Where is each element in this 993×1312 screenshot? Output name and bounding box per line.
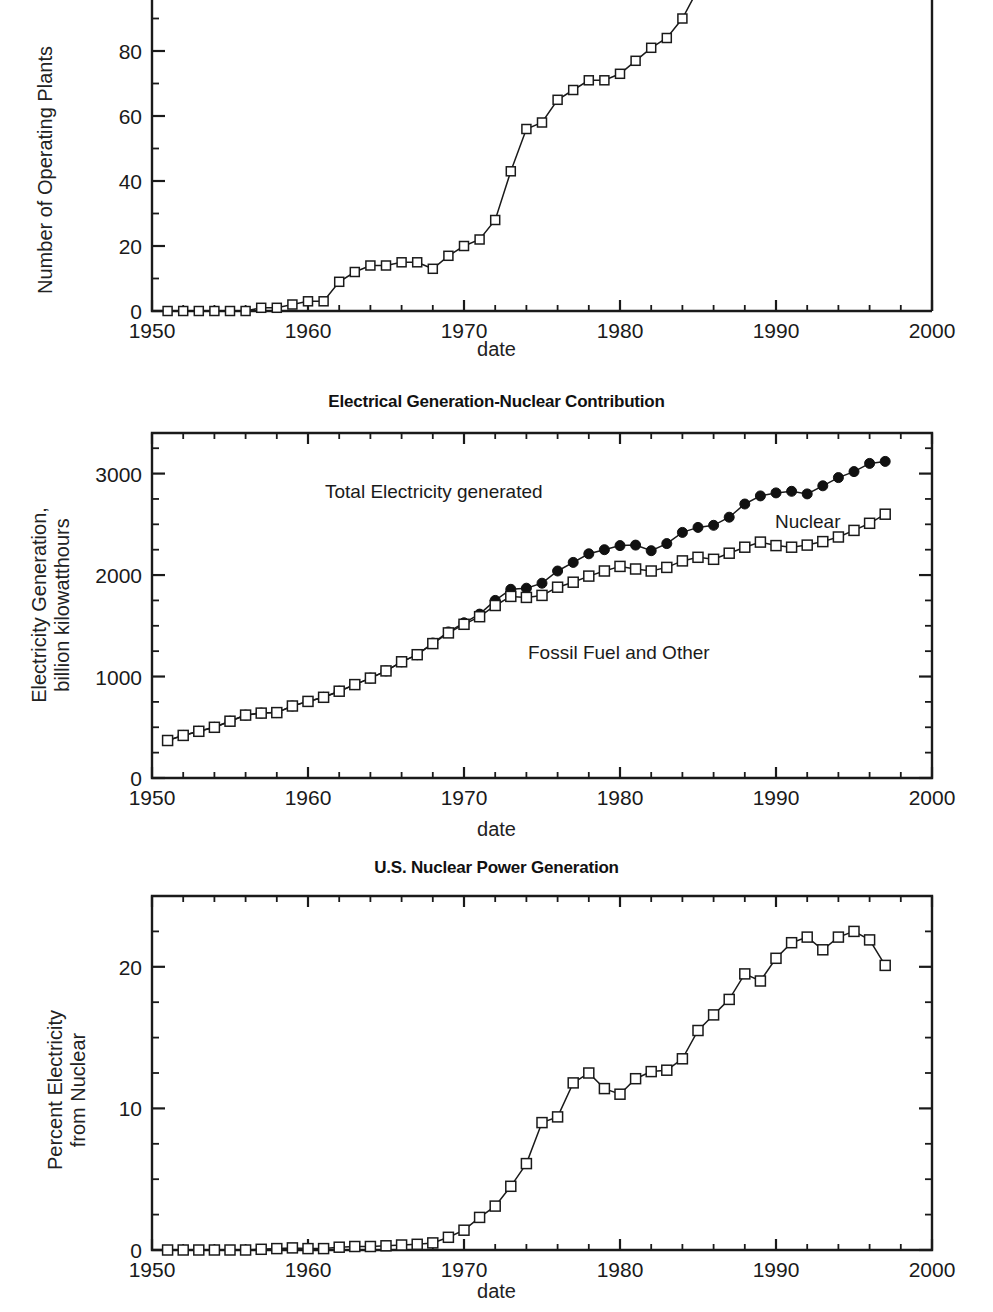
panel2-ylabel: Electricity Generation, billion kilowatt…: [28, 430, 74, 780]
y-tick-label: 20: [119, 235, 142, 258]
panel1-plot-area: 195019601970198019902000020406080100: [0, 0, 993, 370]
nuclear-power-figure: Number of Operating Plants 1950196019701…: [0, 0, 993, 1312]
y-tick-label: 80: [119, 40, 142, 63]
x-tick-label: 1970: [441, 1258, 488, 1281]
y-tick-label: 40: [119, 170, 142, 193]
panel2-ylabel-line2: billion kilowatthours: [51, 430, 74, 780]
panel1-xlabel: date: [0, 338, 993, 361]
y-tick-label: 1000: [95, 666, 142, 689]
panel1-ylabel: Number of Operating Plants: [34, 20, 57, 320]
x-tick-label: 1960: [285, 1258, 332, 1281]
x-tick-label: 1960: [285, 786, 332, 809]
x-tick-label: 1970: [441, 786, 488, 809]
y-tick-label: 60: [119, 105, 142, 128]
panel3-ylabel: Percent Electricity from Nuclear: [44, 940, 90, 1240]
y-tick-label: 20: [119, 956, 142, 979]
panel2-xlabel: date: [0, 818, 993, 841]
series-1: [163, 0, 718, 316]
panel3-ylabel-line1: Percent Electricity: [44, 940, 67, 1240]
panel2-plot-area: 1950196019701980199020000100020003000Tot…: [0, 380, 993, 850]
x-tick-label: 1990: [753, 1258, 800, 1281]
y-tick-label: 0: [130, 767, 142, 790]
y-tick-label: 3000: [95, 463, 142, 486]
panel3-xlabel: date: [0, 1280, 993, 1303]
x-tick-label: 1980: [597, 786, 644, 809]
panel-operating-plants: Number of Operating Plants 1950196019701…: [0, 0, 993, 370]
y-tick-label: 0: [130, 300, 142, 323]
x-tick-label: 2000: [909, 786, 956, 809]
panel-electrical-generation: Electrical Generation-Nuclear Contributi…: [0, 380, 993, 850]
panel1-ylabel-line1: Number of Operating Plants: [34, 46, 56, 294]
x-tick-label: 1980: [597, 1258, 644, 1281]
x-tick-label: 1990: [753, 786, 800, 809]
nuclear-label: Nuclear: [775, 511, 841, 532]
y-tick-label: 2000: [95, 564, 142, 587]
y-tick-label: 0: [130, 1239, 142, 1262]
panel3-title: U.S. Nuclear Power Generation: [0, 858, 993, 878]
fossil-fuel-label: Fossil Fuel and Other: [528, 642, 710, 663]
panel3-ylabel-line2: from Nuclear: [67, 940, 90, 1240]
total-electricity-label: Total Electricity generated: [325, 481, 543, 502]
series-1: [163, 926, 891, 1255]
x-tick-label: 2000: [909, 1258, 956, 1281]
panel2-ylabel-line1: Electricity Generation,: [28, 430, 51, 780]
panel2-title: Electrical Generation-Nuclear Contributi…: [0, 392, 993, 412]
panel3-plot-area: 19501960197019801990200001020: [0, 850, 993, 1312]
panel-nuclear-percent: U.S. Nuclear Power Generation Percent El…: [0, 850, 993, 1312]
series-2: [163, 509, 891, 745]
y-tick-label: 10: [119, 1097, 142, 1120]
